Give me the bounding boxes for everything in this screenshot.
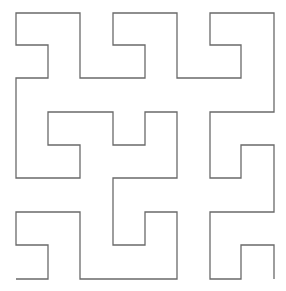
hilbert-curve-figure bbox=[0, 0, 286, 291]
